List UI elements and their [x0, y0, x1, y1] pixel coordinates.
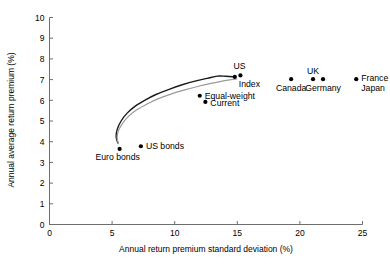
x-axis-tick-label: 15: [233, 228, 243, 238]
data-point-label: US: [233, 61, 245, 71]
data-point-marker: [233, 75, 237, 79]
chart-background: [0, 0, 390, 269]
y-axis-tick-label: 7: [40, 75, 45, 85]
y-axis-title: Annual average return premium (%): [6, 52, 16, 187]
y-axis-tick-label: 0: [40, 220, 45, 230]
y-axis-tick-label: 1: [40, 199, 45, 209]
y-axis-tick-label: 9: [40, 33, 45, 43]
x-axis-tick-label: 10: [170, 228, 180, 238]
y-axis-tick-label: 8: [40, 54, 45, 64]
data-point-label: France: [361, 73, 388, 83]
y-axis-tick-label: 5: [40, 116, 45, 126]
x-axis-tick-label: 5: [110, 228, 115, 238]
y-axis-tick-label: 4: [40, 137, 45, 147]
data-point-label: US bonds: [146, 141, 185, 151]
data-point-marker: [238, 73, 242, 77]
x-axis-title: Annual return premium standard deviation…: [119, 244, 293, 254]
y-axis-tick-label: 6: [40, 96, 45, 106]
y-axis-tick-label: 10: [35, 13, 45, 23]
scatter-chart: 0510152025012345678910 Euro bondsUS bond…: [0, 0, 390, 269]
data-point-label: UK: [307, 66, 319, 76]
data-point-label: Index: [239, 79, 261, 89]
y-axis-tick-label: 3: [40, 158, 45, 168]
x-axis-tick-label: 25: [358, 228, 368, 238]
data-point-marker: [321, 77, 325, 81]
x-axis-tick-label: 0: [47, 228, 52, 238]
data-point-marker: [311, 77, 315, 81]
chart-canvas: 0510152025012345678910 Euro bondsUS bond…: [0, 0, 390, 269]
data-point-label: Canada: [276, 83, 307, 93]
data-point-label: Current: [210, 98, 240, 108]
data-point-marker: [118, 147, 122, 151]
data-point-label: Germany: [305, 83, 341, 93]
data-point-marker: [139, 144, 143, 148]
data-point-label: Japan: [361, 83, 385, 93]
data-point-marker: [198, 94, 202, 98]
data-point-label: Euro bonds: [95, 152, 140, 162]
x-axis-tick-label: 20: [295, 228, 305, 238]
data-point-marker: [289, 77, 293, 81]
y-axis-tick-label: 2: [40, 178, 45, 188]
data-point-marker: [354, 77, 358, 81]
